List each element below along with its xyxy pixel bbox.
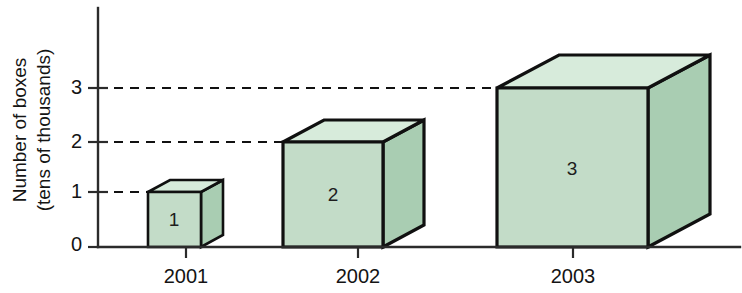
x-tick-label-2002: 2002 [336, 265, 381, 287]
bar-2003-value-label: 3 [567, 158, 578, 179]
bar-2002[interactable]: 2 [283, 120, 424, 247]
bar-2002-value-label: 2 [328, 184, 339, 205]
y-tick-label-1: 1 [71, 180, 82, 202]
bar-2001[interactable]: 1 [148, 180, 223, 247]
y-axis-title-line2: (tens of thousands) [33, 49, 54, 212]
y-axis-title-line1: Number of boxes [9, 58, 30, 203]
bar-2001-value-label: 1 [169, 209, 180, 230]
y-axis-title: Number of boxes (tens of thousands) [9, 49, 54, 212]
x-axis-tick-labels: 2001 2002 2003 [164, 265, 596, 287]
y-tick-label-0: 0 [71, 233, 82, 255]
x-axis-ticks [186, 247, 573, 258]
bar-chart-figure: Number of boxes (tens of thousands) 3 2 [0, 0, 742, 293]
y-axis-tick-labels: 3 2 1 0 [71, 76, 82, 255]
x-tick-label-2003: 2003 [551, 265, 596, 287]
bar-2003[interactable]: 3 [497, 55, 710, 247]
chart-canvas: Number of boxes (tens of thousands) 3 2 [0, 0, 742, 293]
y-tick-label-3: 3 [71, 76, 82, 98]
y-tick-label-2: 2 [71, 130, 82, 152]
x-tick-label-2001: 2001 [164, 265, 209, 287]
